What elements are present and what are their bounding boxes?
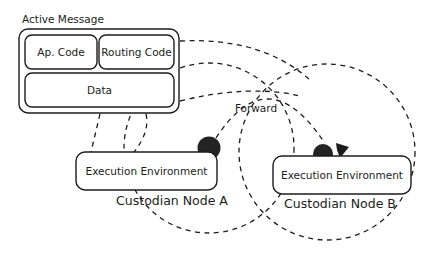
execution-environment-label-a: Execution Environment	[86, 165, 208, 177]
custodian-node-b-label: Custodian Node B	[284, 196, 396, 211]
message-link-right	[134, 114, 147, 152]
data-label: Data	[87, 84, 112, 96]
diagram-canvas: Active Message Ap. Code Routing Code Dat…	[0, 0, 430, 272]
execution-environment-label-b: Execution Environment	[281, 169, 403, 181]
forward-label: Forward	[235, 102, 277, 114]
diagram-svg: Active Message Ap. Code Routing Code Dat…	[0, 0, 430, 272]
message-curve-upper	[180, 41, 310, 80]
ap-code-label: Ap. Code	[37, 46, 84, 58]
message-link-left	[91, 114, 100, 152]
routing-code-label: Routing Code	[101, 46, 171, 58]
active-message-title: Active Message	[22, 13, 104, 25]
message-curve-lower	[180, 91, 300, 101]
custodian-node-a-label: Custodian Node A	[116, 193, 228, 208]
